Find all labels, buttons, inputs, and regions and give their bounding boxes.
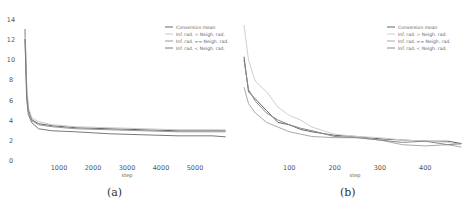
x-axis-label: step [350, 172, 361, 179]
x-tick-label: 4000 [153, 164, 170, 172]
x-axis-label: step [122, 172, 133, 179]
y-tick-label: 4 [9, 117, 13, 125]
chart-a: 0246810121410002000300040005000stepConve… [0, 0, 235, 185]
legend-entry: Inf. rad. > Neigh. rad. [176, 32, 225, 37]
legend: Conversion meanInf. rad. > Neigh. rad.In… [165, 25, 228, 51]
series-line [25, 29, 226, 130]
legend-entry: Inf. rad. > Neigh. rad. [398, 32, 447, 37]
y-tick-label: 2 [9, 137, 13, 145]
legend-entry: Conversion mean [176, 25, 216, 30]
chart-b: 2468101214100200300400stepConversion mea… [235, 0, 469, 185]
series-line [244, 60, 461, 145]
caption-b: (b) [340, 186, 356, 199]
y-tick-label: 6 [9, 97, 13, 105]
x-tick-label: 2000 [85, 164, 102, 172]
legend-entry: Inf. rad. < Neigh. rad. [398, 46, 447, 51]
figure: 0246810121410002000300040005000stepConve… [0, 0, 469, 210]
x-tick-label: 1000 [51, 164, 68, 172]
legend: Conversion meanInf. rad. > Neigh. rad.In… [387, 25, 450, 51]
x-tick-label: 100 [283, 164, 295, 172]
x-tick-label: 300 [374, 164, 386, 172]
x-tick-label: 400 [419, 164, 431, 172]
y-tick-label: 10 [7, 56, 15, 64]
series-line [244, 57, 461, 144]
x-tick-label: 5000 [187, 164, 204, 172]
caption-a: (a) [107, 186, 122, 199]
x-tick-label: 3000 [119, 164, 136, 172]
y-tick-label: 8 [9, 76, 13, 84]
x-tick-label: 200 [328, 164, 340, 172]
series-line [244, 87, 461, 147]
series-line [25, 29, 226, 131]
series-line [25, 39, 226, 137]
series-line [25, 39, 226, 132]
legend-entry: Inf. rad. == Neigh. rad. [176, 39, 228, 44]
y-tick-label: 14 [7, 16, 15, 24]
y-tick-label: 12 [7, 36, 15, 44]
y-tick-label: 0 [9, 157, 13, 165]
legend-entry: Inf. rad. < Neigh. rad. [176, 46, 225, 51]
legend-entry: Inf. rad. == Neigh. rad. [398, 39, 450, 44]
legend-entry: Conversion mean [398, 25, 438, 30]
